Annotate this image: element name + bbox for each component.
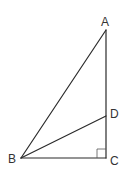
segment-ab xyxy=(21,30,106,158)
vertex-label-d: D xyxy=(110,107,119,121)
right-angle-marker xyxy=(97,149,106,158)
segment-bd xyxy=(21,116,106,158)
triangle-diagram: A B C D xyxy=(0,0,130,176)
vertex-label-c: C xyxy=(110,154,119,168)
vertex-label-b: B xyxy=(8,152,16,166)
vertex-label-a: A xyxy=(101,15,109,29)
